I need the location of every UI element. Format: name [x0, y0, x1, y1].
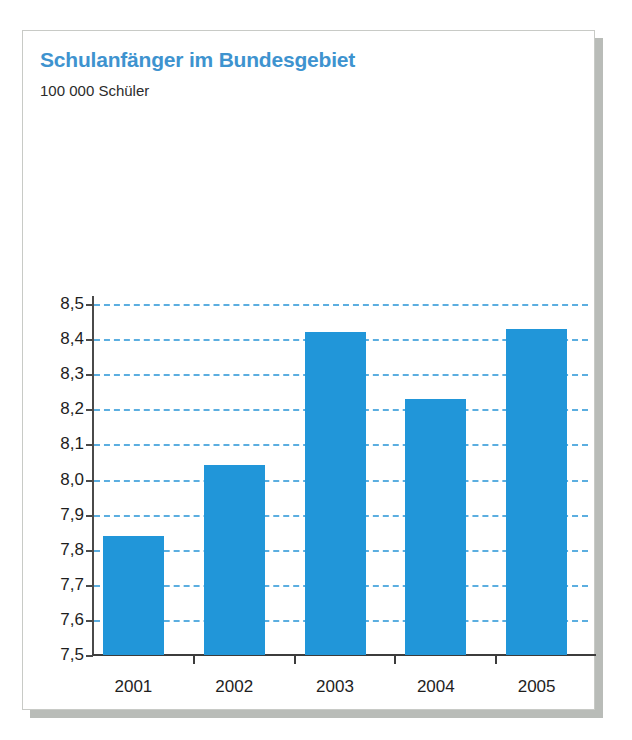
- y-axis-tick: [86, 409, 93, 411]
- x-axis-tick-label: 2005: [492, 677, 582, 697]
- y-axis-tick: [86, 480, 93, 482]
- bar: [405, 399, 466, 655]
- y-axis-tick: [86, 304, 93, 306]
- y-axis-tick: [86, 444, 93, 446]
- bar: [506, 329, 567, 655]
- plot-area: 8,58,48,38,28,18,07,97,87,77,67,5 200120…: [92, 304, 596, 655]
- y-axis-tick-label: 8,4: [36, 329, 84, 349]
- x-axis-tick-label: 2004: [391, 677, 481, 697]
- y-axis-tick-label: 8,0: [36, 470, 84, 490]
- chart-subtitle: 100 000 Schüler: [40, 82, 149, 99]
- x-axis-tick-label: 2002: [189, 677, 279, 697]
- gridline: [94, 304, 588, 306]
- y-axis-tick: [86, 550, 93, 552]
- y-axis-tick-label: 7,8: [36, 540, 84, 560]
- y-axis-tick-label: 7,5: [36, 645, 84, 665]
- y-axis-tick: [86, 339, 93, 341]
- y-axis-tick: [86, 620, 93, 622]
- y-axis-tick: [86, 515, 93, 517]
- y-axis-line: [92, 296, 94, 655]
- chart-card: Schulanfänger im Bundesgebiet 100 000 Sc…: [22, 30, 595, 710]
- y-axis-tick: [86, 585, 93, 587]
- x-axis-tick: [193, 655, 195, 664]
- x-axis-tick: [495, 655, 497, 664]
- bar: [103, 536, 164, 655]
- y-axis-tick-label: 7,9: [36, 505, 84, 525]
- y-axis-tick: [86, 374, 93, 376]
- y-axis-tick-label: 8,3: [36, 364, 84, 384]
- x-axis-tick-label: 2001: [88, 677, 178, 697]
- y-axis-tick-label: 7,6: [36, 610, 84, 630]
- x-axis-tick: [394, 655, 396, 664]
- y-axis-tick: [86, 655, 93, 657]
- y-axis-tick-label: 7,7: [36, 575, 84, 595]
- y-axis-tick-label: 8,2: [36, 399, 84, 419]
- x-axis-tick-label: 2003: [290, 677, 380, 697]
- x-axis-tick: [294, 655, 296, 664]
- y-axis-tick-label: 8,1: [36, 434, 84, 454]
- y-axis-tick-label: 8,5: [36, 294, 84, 314]
- bar: [204, 465, 265, 655]
- page-title: Schulanfänger im Bundesgebiet: [40, 48, 355, 72]
- bar: [305, 332, 366, 655]
